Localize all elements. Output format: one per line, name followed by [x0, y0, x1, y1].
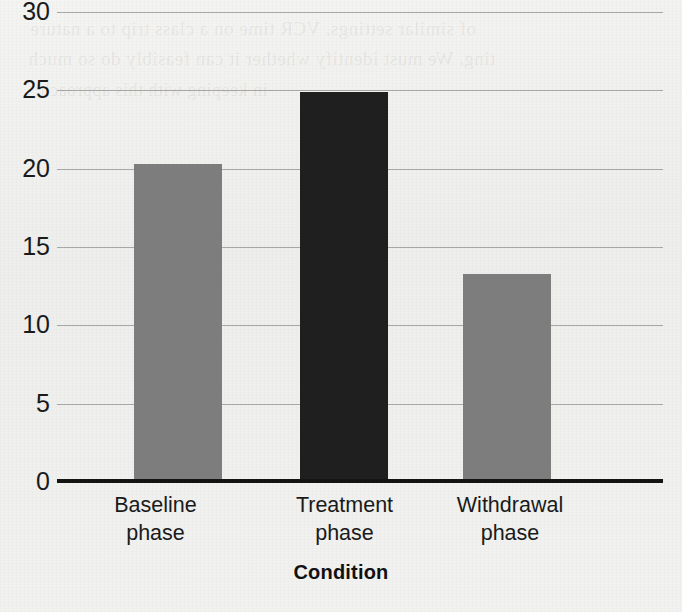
y-tick-label-30: 30 — [2, 0, 50, 24]
gridline-30 — [57, 12, 663, 13]
x-tick-label-withdrawal-phase-line2: phase — [430, 520, 590, 548]
bar-chart-figure: 30 25 20 15 10 5 0 Baseline phase Treatm… — [0, 0, 682, 612]
plot-area — [57, 0, 663, 482]
x-tick-label-withdrawal-phase-line1: Withdrawal — [430, 492, 590, 520]
x-tick-label-withdrawal-phase: Withdrawal phase — [430, 492, 590, 547]
x-tick-label-treatment-phase: Treatment phase — [267, 492, 422, 547]
x-tick-label-treatment-phase-line1: Treatment — [267, 492, 422, 520]
bar-treatment-phase — [300, 92, 388, 482]
x-axis-title: Condition — [0, 561, 682, 584]
y-tick-label-25: 25 — [2, 77, 50, 102]
x-tick-label-treatment-phase-line2: phase — [267, 520, 422, 548]
y-tick-label-20: 20 — [2, 156, 50, 181]
x-tick-label-baseline-phase-line2: phase — [78, 520, 233, 548]
x-axis-line — [57, 479, 663, 483]
x-tick-label-baseline-phase: Baseline phase — [78, 492, 233, 547]
y-tick-label-10: 10 — [2, 312, 50, 337]
x-tick-label-baseline-phase-line1: Baseline — [78, 492, 233, 520]
y-tick-label-15: 15 — [2, 234, 50, 259]
y-axis: 30 25 20 15 10 5 0 — [0, 0, 50, 482]
bar-baseline-phase — [134, 164, 222, 482]
y-tick-label-0: 0 — [2, 469, 50, 494]
y-tick-label-5: 5 — [2, 391, 50, 416]
bar-withdrawal-phase — [463, 274, 551, 482]
